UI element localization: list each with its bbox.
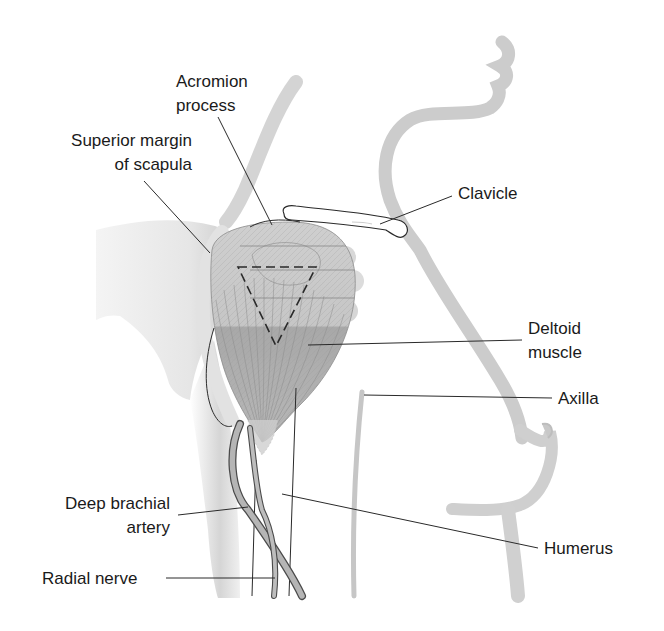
label-axilla: Axilla [558,387,599,411]
face-neck-profile [385,42,522,438]
label-radial-nerve: Radial nerve [42,567,137,591]
label-deltoid-muscle: Deltoid muscle [528,317,582,365]
label-superior-margin-of-scapula: Superior margin of scapula [40,129,192,177]
label-humerus: Humerus [544,537,613,561]
humerus-line-right [289,388,296,596]
breast-contour [452,430,552,510]
leader-humerus [282,494,538,548]
label-acromion-process: Acromion process [176,70,248,118]
torso-edge [508,510,518,596]
label-clavicle: Clavicle [458,182,518,206]
chest-wall-line [353,392,362,596]
leader-axilla [364,395,552,398]
label-deep-brachial-artery: Deep brachial artery [40,492,170,540]
